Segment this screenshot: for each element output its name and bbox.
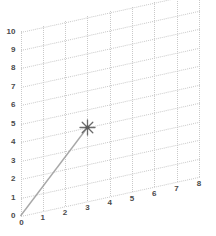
y-tick-label-4: 4 [2, 138, 16, 146]
y-tick-label-7: 7 [2, 83, 16, 91]
y-tick-label-9: 9 [2, 46, 16, 54]
x-tick-label-5: 5 [127, 195, 137, 203]
x-tick-label-6: 6 [149, 190, 159, 198]
y-tick-label-0: 0 [2, 212, 16, 220]
x-tick-label-4: 4 [105, 199, 115, 207]
y-tick-label-1: 1 [2, 194, 16, 202]
y-tick-label-5: 5 [2, 120, 16, 128]
y-tick-label-2: 2 [2, 175, 16, 183]
gridline-x-8 [199, 0, 200, 177]
x-tick-label-0: 0 [17, 219, 27, 227]
chart-canvas: 012345678910012345678 [0, 0, 216, 236]
x-tick-label-3: 3 [82, 204, 92, 212]
gridline-x-7 [177, 0, 178, 182]
x-tick-label-1: 1 [38, 214, 48, 222]
y-tick-label-8: 8 [2, 64, 16, 72]
x-tick-label-8: 8 [194, 180, 204, 188]
y-tick-label-3: 3 [2, 157, 16, 165]
y-tick-label-6: 6 [2, 101, 16, 109]
x-tick-label-7: 7 [172, 185, 182, 193]
y-tick-label-10: 10 [2, 28, 16, 36]
x-tick-label-2: 2 [60, 209, 70, 217]
